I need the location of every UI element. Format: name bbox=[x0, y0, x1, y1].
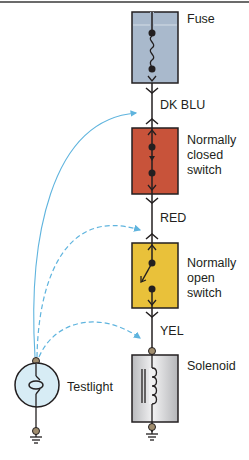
open-switch-label: Normally open switch bbox=[187, 256, 236, 301]
open-switch-component bbox=[132, 234, 178, 308]
red-wire-label: RED bbox=[160, 211, 186, 226]
solenoid-component bbox=[132, 348, 178, 431]
fuse-component bbox=[132, 12, 178, 83]
solenoid-label: Solenoid bbox=[187, 359, 236, 374]
testlight-component bbox=[15, 358, 59, 435]
closed-switch-label: Normally closed switch bbox=[187, 133, 236, 178]
yel-wire-label: YEL bbox=[160, 324, 184, 339]
circuit-diagram bbox=[0, 0, 249, 460]
ground-icon bbox=[30, 434, 42, 443]
closed-switch-component bbox=[132, 119, 178, 194]
fuse-label: Fuse bbox=[187, 12, 215, 27]
probe-path-dk-blu bbox=[34, 113, 136, 357]
probe-path-yel bbox=[39, 322, 140, 357]
ground-icon bbox=[146, 430, 158, 440]
probe-path-red bbox=[37, 226, 140, 357]
dk-blu-wire-label: DK BLU bbox=[160, 98, 205, 113]
testlight-label: Testlight bbox=[67, 380, 113, 395]
